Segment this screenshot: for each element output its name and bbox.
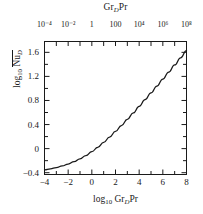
y-axis-title-symbol-overbar: NuD (12, 50, 24, 67)
y-axis-tick-label: 0 (35, 144, 40, 154)
x-axis-tick-labels: −4−202468 (0, 177, 203, 190)
x-axis-tick-label: −2 (63, 177, 73, 188)
y-axis-tick-label: 0.4 (28, 120, 39, 130)
bottom-axis-title-log-base: 10 (105, 198, 112, 205)
x-axis-tick-label: −4 (40, 177, 50, 188)
y-axis-tick-label: 1.6 (28, 47, 39, 57)
y-axis-title-prefix: log (12, 76, 22, 88)
x-axis-tick-label: 6 (161, 177, 166, 188)
plot-frame (45, 42, 187, 175)
x-axis-tick-label: 8 (184, 177, 189, 188)
x-axis-tick-label: 4 (137, 177, 142, 188)
y-axis-tick-label: 1.2 (28, 71, 39, 81)
bottom-axis-title-mid: Gr (114, 194, 124, 204)
x-axis-tick-label: 2 (113, 177, 118, 188)
y-axis-title-log-base: 10 (16, 69, 23, 76)
bottom-axis-title: log10 GrDPr (44, 194, 187, 205)
x-axis-tick-label: 0 (90, 177, 95, 188)
y-axis-title-symbol: Nu (12, 55, 22, 67)
y-axis-tick-label: 0.8 (28, 95, 39, 105)
chart-figure: GrDPr 10⁻⁴10⁻²110010⁴10⁶10⁸ −0.400.40.81… (0, 0, 203, 214)
bottom-axis-title-prefix: log (93, 194, 105, 204)
y-axis-title: log10 NuD (12, 9, 24, 129)
bottom-axis-title-suffix: Pr (129, 194, 137, 204)
y-axis-title-subscript: D (16, 50, 23, 55)
